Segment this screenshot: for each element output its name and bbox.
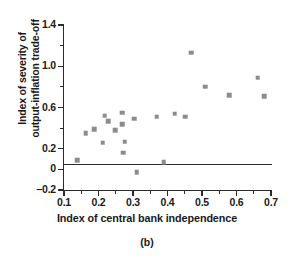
x-tick-minor	[219, 191, 220, 194]
data-point	[255, 75, 260, 80]
x-tick-label: 0.1	[50, 196, 78, 208]
data-point	[120, 110, 125, 115]
x-tick-label: 0.7	[257, 196, 285, 208]
data-point	[262, 94, 267, 99]
x-tick-label: 0.2	[85, 196, 113, 208]
data-point	[106, 119, 111, 124]
x-tick-label: 0.6	[223, 196, 251, 208]
data-point	[132, 117, 137, 122]
x-tick-label: 0.5	[188, 196, 216, 208]
zero-reference-line	[64, 164, 272, 165]
y-axis-title: Index of severity of output-inflation tr…	[16, 0, 41, 159]
y-tick-major	[58, 169, 63, 170]
data-point	[92, 127, 97, 132]
panel-caption: (b)	[0, 236, 294, 248]
data-point	[113, 128, 118, 133]
y-axis-title-line1: Index of severity of	[16, 0, 29, 159]
x-tick-minor	[81, 191, 82, 194]
y-tick-minor	[60, 86, 63, 87]
y-tick-label: 0	[20, 162, 56, 174]
x-tick-minor	[253, 191, 254, 194]
scatter-plot-figure: −0.200.20.61.01.4 0.10.20.30.40.50.60.7 …	[0, 0, 294, 256]
data-point	[189, 51, 194, 56]
data-point	[203, 85, 208, 90]
data-point	[183, 114, 188, 119]
y-tick-major	[58, 189, 63, 190]
x-tick-label: 0.4	[154, 196, 182, 208]
y-axis-line	[63, 24, 64, 191]
y-tick-label: −0.2	[20, 183, 56, 195]
y-tick-major	[58, 107, 63, 108]
data-point	[161, 160, 166, 165]
x-tick-minor	[150, 191, 151, 194]
data-point	[122, 139, 127, 144]
data-point	[120, 122, 125, 127]
y-tick-major	[58, 24, 63, 25]
data-point	[83, 131, 88, 136]
y-axis-title-line2: output-inflation trade-off	[28, 0, 41, 159]
y-tick-major	[58, 66, 63, 67]
y-tick-major	[58, 148, 63, 149]
data-point	[121, 151, 126, 156]
x-tick-minor	[184, 191, 185, 194]
data-point	[172, 111, 177, 116]
x-tick-label: 0.3	[119, 196, 147, 208]
data-point	[227, 93, 232, 98]
x-axis-title: Index of central bank independence	[0, 212, 294, 224]
y-tick-minor	[60, 45, 63, 46]
data-point	[155, 114, 160, 119]
data-point	[100, 140, 105, 145]
data-point	[134, 170, 139, 175]
data-point	[102, 113, 107, 118]
y-tick-minor	[60, 128, 63, 129]
data-point	[75, 158, 80, 163]
x-tick-minor	[115, 191, 116, 194]
